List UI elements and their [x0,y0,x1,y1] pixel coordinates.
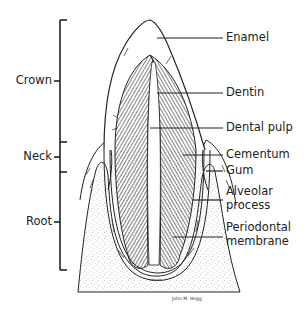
label-neck: Neck [4,150,52,163]
region-bracket [54,20,67,270]
label-membrane: membrane [226,235,289,248]
label-cementum: Cementum [226,148,290,161]
label-crown: Crown [4,74,52,87]
artist-signature: John M. Hogg [172,296,202,301]
label-alveolar: Alveolar [226,185,273,198]
label-dentin: Dentin [226,86,264,99]
label-enamel: Enamel [226,31,269,44]
label-process: process [226,199,270,212]
label-dental-pulp: Dental pulp [226,121,293,134]
label-gum: Gum [226,164,253,177]
label-root: Root [4,215,52,228]
label-periodontal: Periodontal [226,221,291,234]
